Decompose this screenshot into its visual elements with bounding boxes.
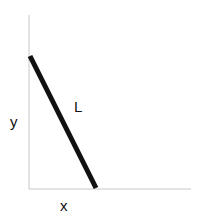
diagram-canvas: y L x [0, 0, 198, 222]
segment-l [30, 56, 96, 188]
diagram-svg [0, 0, 198, 222]
x-axis-label: x [60, 198, 68, 213]
segment-label: L [74, 99, 82, 114]
y-axis-label: y [10, 114, 18, 129]
